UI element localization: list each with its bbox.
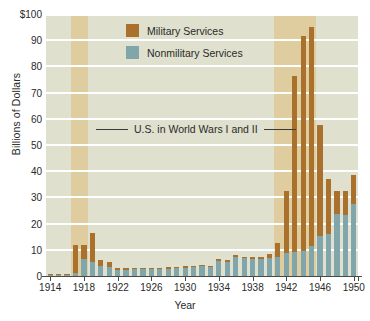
bar-1917 (73, 245, 78, 276)
bar-1941 (275, 243, 280, 276)
x-tick-label: 1934 (208, 282, 230, 293)
x-tick-label: 1950 (343, 282, 365, 293)
bar-segment-military (301, 36, 306, 251)
bar-1930 (183, 266, 188, 276)
bar-1918 (81, 245, 86, 276)
x-tick-label: 1918 (73, 282, 95, 293)
bar-1935 (225, 260, 230, 276)
bar-1940 (267, 254, 272, 276)
bar-segment-nonmilitary (157, 269, 162, 276)
bar-1936 (233, 255, 238, 276)
y-tick-label: 60 (2, 113, 42, 124)
bar-1944 (301, 36, 306, 276)
y-tick-label: 10 (2, 244, 42, 255)
bar-segment-nonmilitary (225, 262, 230, 276)
bar-1937 (242, 257, 247, 276)
bar-segment-nonmilitary (284, 253, 289, 276)
bar-segment-nonmilitary (301, 251, 306, 276)
bar-1947 (326, 179, 331, 276)
bar-segment-military (326, 179, 331, 235)
bar-1920 (98, 260, 103, 276)
bar-segment-nonmilitary (292, 252, 297, 276)
x-tick-mark (50, 276, 51, 281)
bar-segment-nonmilitary (107, 267, 112, 276)
bar-segment-military (343, 191, 348, 215)
bar-1921 (107, 262, 112, 276)
x-tick-mark (286, 276, 287, 281)
bar-segment-military (284, 191, 289, 254)
y-tick-label: 20 (2, 218, 42, 229)
bar-segment-nonmilitary (81, 259, 86, 276)
bar-segment-nonmilitary (258, 259, 263, 276)
x-tick-label: 1938 (241, 282, 263, 293)
bar-segment-nonmilitary (183, 268, 188, 276)
bar-1950 (351, 175, 356, 276)
x-tick-mark-end (358, 276, 359, 281)
x-axis-title: Year (0, 299, 370, 311)
bar-segment-nonmilitary (343, 215, 348, 276)
bar-segment-military (309, 27, 314, 246)
bar-segment-military (73, 245, 78, 273)
bar-segment-nonmilitary (309, 246, 314, 276)
y-axis-tick-labels: $1009080706050403020100 (1, 0, 42, 321)
x-tick-mark (320, 276, 321, 281)
y-tick-label: 0 (2, 271, 42, 282)
x-tick-label: 1922 (107, 282, 129, 293)
bar-segment-nonmilitary (140, 269, 145, 276)
bar-segment-nonmilitary (317, 236, 322, 276)
bar-segment-nonmilitary (233, 257, 238, 276)
war-annotation-label: U.S. in World Wars I and II (134, 123, 258, 135)
x-tick-label: 1926 (140, 282, 162, 293)
legend-item-nonmilitary: Nonmilitary Services (126, 46, 243, 59)
bar-segment-military (292, 76, 297, 251)
bar-segment-nonmilitary (326, 234, 331, 276)
bar-segment-nonmilitary (208, 267, 213, 276)
x-tick-label: 1914 (39, 282, 61, 293)
bar-1928 (166, 267, 171, 276)
y-tick-label: 80 (2, 61, 42, 72)
y-tick-label: 70 (2, 87, 42, 98)
war-annotation: U.S. in World Wars I and II (96, 123, 296, 135)
x-tick-mark (185, 276, 186, 281)
x-axis-line (42, 276, 362, 277)
bar-1942 (284, 191, 289, 276)
bar-1948 (334, 191, 339, 276)
bar-1939 (258, 257, 263, 276)
bar-1933 (208, 266, 213, 276)
bar-1945 (309, 27, 314, 276)
x-tick-mark (253, 276, 254, 281)
legend-item-military: Military Services (126, 24, 243, 37)
bar-1924 (132, 268, 137, 276)
bar-1949 (343, 191, 348, 276)
bar-1923 (123, 268, 128, 276)
bar-segment-nonmilitary (166, 269, 171, 276)
bar-segment-nonmilitary (216, 261, 221, 276)
bar-segment-nonmilitary (90, 262, 95, 276)
war-annotation-leader-left (96, 129, 128, 130)
bar-1943 (292, 76, 297, 276)
x-tick-mark (151, 276, 152, 281)
y-tick-label: 90 (2, 35, 42, 46)
x-tick-label: 1946 (309, 282, 331, 293)
bar-segment-nonmilitary (242, 258, 247, 276)
bar-segment-nonmilitary (191, 267, 196, 276)
y-tick-label: 30 (2, 192, 42, 203)
bar-1922 (115, 268, 120, 276)
bar-segment-nonmilitary (98, 266, 103, 276)
bar-segment-nonmilitary (351, 204, 356, 276)
bar-segment-nonmilitary (267, 258, 272, 276)
bar-1934 (216, 259, 221, 276)
legend-label-military: Military Services (147, 25, 223, 37)
bar-1932 (199, 265, 204, 276)
bar-1946 (317, 125, 322, 276)
chart-figure: Billions of Dollars $1009080706050403020… (0, 0, 370, 321)
bar-segment-military (317, 125, 322, 236)
bar-1919 (90, 233, 95, 276)
bar-1938 (250, 257, 255, 276)
bar-segment-nonmilitary (334, 214, 339, 276)
x-tick-mark (118, 276, 119, 281)
bar-segment-nonmilitary (275, 257, 280, 276)
y-axis-origin-tick (42, 276, 47, 277)
bar-segment-military (81, 245, 86, 259)
legend-label-nonmilitary: Nonmilitary Services (147, 47, 243, 59)
